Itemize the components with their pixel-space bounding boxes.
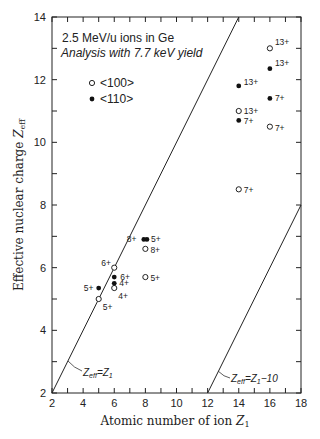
filled-circle-marker-icon [267, 66, 272, 71]
point-charge-label: 7+ [244, 116, 254, 126]
point-charge-label: 4+ [118, 291, 128, 301]
chart-title: 2.5 MeV/u ions in Ge [62, 31, 174, 45]
y-tick-label: 2 [40, 387, 46, 399]
point-charge-label: 7+ [244, 185, 254, 195]
reference-line [52, 17, 239, 393]
filled-circle-marker-icon [96, 286, 101, 291]
x-tick-label: 14 [233, 397, 245, 409]
legend-open-circle-icon [89, 80, 94, 85]
point-charge-label: 13+ [275, 58, 289, 68]
open-circle-marker-icon [267, 124, 272, 129]
point-charge-label: 7+ [275, 93, 285, 103]
axis-ticks: 246810121416182468101214 [34, 11, 307, 409]
open-circle-marker-icon [236, 187, 241, 192]
open-circle-marker-icon [112, 265, 117, 270]
open-circle-marker-icon [143, 246, 148, 251]
chart: 246810121416182468101214 5+4+6+5+8+7+13+… [0, 0, 320, 439]
x-tick-label: 2 [49, 397, 55, 409]
point-charge-label: 5+ [103, 302, 113, 312]
leader-line-zeff-z1 [68, 361, 82, 371]
open-circle-marker-icon [112, 285, 117, 290]
label-zeff-eq-z1-minus-10: Zeff=Z1−10 [230, 373, 278, 385]
point-charge-label: 8+ [127, 234, 137, 244]
label-zeff-eq-z1: Zeff=Z1 [82, 367, 113, 379]
legend-label-100: <100> [100, 76, 134, 90]
x-tick-label: 8 [142, 397, 148, 409]
point-charge-label: 13+ [275, 37, 289, 47]
y-tick-label: 12 [34, 74, 46, 86]
open-circle-marker-icon [96, 296, 101, 301]
y-tick-label: 10 [34, 136, 46, 148]
x-axis-title: Atomic number of ion Z1 [100, 414, 250, 429]
reference-lines [52, 17, 301, 393]
point-charge-label: 5+ [150, 273, 160, 283]
filled-circle-marker-icon [236, 84, 241, 89]
filled-circle-marker-icon [112, 281, 117, 286]
point-charge-label: 6+ [120, 272, 130, 282]
legend-filled-circle-icon [90, 97, 95, 102]
point-charge-label: 6+ [101, 258, 111, 268]
point-charge-label: 5+ [151, 234, 161, 244]
filled-circle-marker-icon [267, 96, 272, 101]
y-tick-label: 6 [40, 262, 46, 274]
open-circle-marker-icon [143, 274, 148, 279]
y-tick-label: 8 [40, 199, 46, 211]
legend-label-110: <110> [100, 92, 133, 106]
reference-line [208, 205, 301, 393]
filled-circle-marker-icon [236, 118, 241, 123]
x-tick-label: 12 [202, 397, 214, 409]
filled-circle-marker-icon [112, 275, 117, 280]
x-tick-label: 18 [295, 397, 307, 409]
x-tick-label: 4 [80, 397, 86, 409]
filled-circle-marker-icon [145, 237, 150, 242]
y-axis-title: Effective nuclear charge Zeff [12, 118, 27, 291]
open-circle-marker-icon [236, 108, 241, 113]
x-tick-label: 6 [111, 397, 117, 409]
leader-line-zeff-z1-minus-10 [218, 371, 230, 378]
y-tick-label: 14 [34, 11, 46, 23]
y-tick-label: 4 [40, 324, 46, 336]
chart-subtitle: Analysis with 7.7 keV yield [60, 46, 203, 60]
point-charge-label: 7+ [275, 123, 285, 133]
open-circle-marker-icon [267, 46, 272, 51]
plot-frame [52, 17, 301, 393]
point-charge-label: 13+ [244, 106, 258, 116]
point-charge-label: 8+ [150, 245, 160, 255]
point-charge-label: 5+ [84, 283, 94, 293]
x-tick-label: 10 [170, 397, 182, 409]
point-charge-label: 13+ [244, 77, 258, 87]
x-tick-label: 16 [264, 397, 276, 409]
